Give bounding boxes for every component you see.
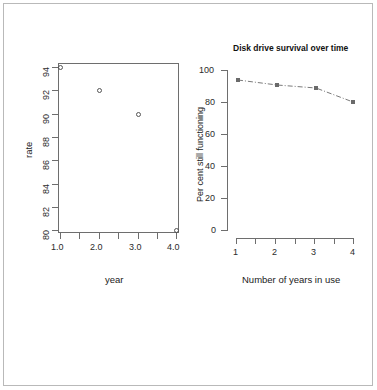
left-ytick-label-90: 90 <box>42 114 51 124</box>
left-scatter-panel: 94 92 90 88 86 84 82 80 1.0 2.0 3.0 4.0 … <box>0 0 190 300</box>
left-ytick-80 <box>52 230 58 231</box>
left-ytick-92 <box>52 90 58 91</box>
left-x-axis-title: year <box>105 275 123 285</box>
left-xtick-1-0 <box>60 233 61 239</box>
left-ytick-84 <box>52 184 58 185</box>
right-data-point-year-4 <box>351 100 355 104</box>
left-xtick-3-0 <box>138 233 139 239</box>
screenshot-root: 94 92 90 88 86 84 82 80 1.0 2.0 3.0 4.0 … <box>0 0 377 390</box>
left-data-point-year-2 <box>97 88 102 93</box>
left-ytick-label-80: 80 <box>42 230 51 240</box>
left-data-point-year-4 <box>174 228 179 233</box>
left-ytick-label-84: 84 <box>42 184 51 194</box>
left-ytick-90 <box>52 114 58 115</box>
left-plot-frame <box>58 63 179 233</box>
left-xtick-2-5 <box>118 233 119 239</box>
left-ytick-label-88: 88 <box>42 137 51 147</box>
left-ytick-label-92: 92 <box>42 90 51 100</box>
right-line-panel: Disk drive survival over time 100 80 60 … <box>185 0 377 300</box>
left-xtick-3-5 <box>157 233 158 239</box>
left-ytick-88 <box>52 137 58 138</box>
left-ytick-82 <box>52 207 58 208</box>
left-xtick-1-5 <box>79 233 80 239</box>
left-ytick-label-94: 94 <box>42 67 51 77</box>
left-y-axis-title: rate <box>24 142 34 158</box>
left-xtick-label-3-0: 3.0 <box>129 243 142 252</box>
right-data-point-year-1 <box>236 78 240 82</box>
right-series-line <box>185 0 377 300</box>
left-ytick-label-82: 82 <box>42 207 51 217</box>
left-ytick-86 <box>52 160 58 161</box>
left-data-point-year-1 <box>58 65 63 70</box>
left-ytick-label-86: 86 <box>42 160 51 170</box>
right-data-point-year-3 <box>314 86 318 90</box>
left-xtick-label-2-0: 2.0 <box>90 243 103 252</box>
left-xtick-label-1-0: 1.0 <box>51 243 64 252</box>
left-xtick-4-0 <box>176 233 177 239</box>
left-data-point-year-3 <box>136 112 141 117</box>
left-xtick-label-4-0: 4.0 <box>167 243 180 252</box>
right-data-point-year-2 <box>275 83 279 87</box>
left-xtick-2-0 <box>99 233 100 239</box>
